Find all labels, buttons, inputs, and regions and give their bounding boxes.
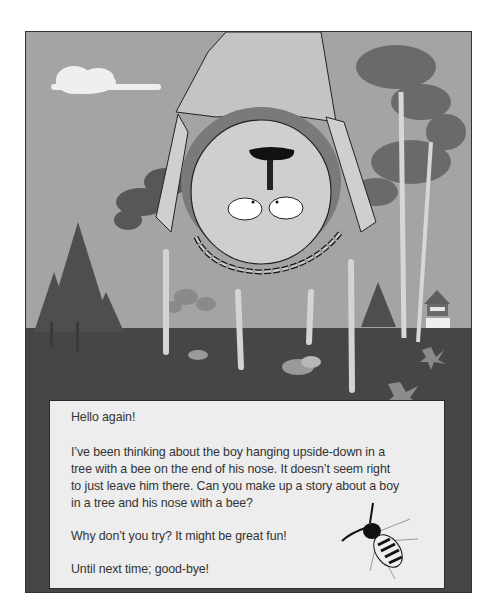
small-trees-icon (166, 289, 216, 313)
letter-paragraph-2: Why don’t you try? It might be great fun… (71, 528, 287, 545)
letter-line-1: I’ve been thinking about the boy hanging… (71, 444, 385, 461)
letter-line-3: to just leave him there. Can you make up… (71, 478, 399, 495)
bee-icon (267, 160, 273, 190)
house-icon (424, 290, 450, 328)
letter-box: Hello again! I’ve been thinking about th… (49, 400, 445, 589)
illustration-frame: Hello again! I’ve been thinking about th… (25, 31, 472, 593)
letter-greeting: Hello again! (71, 409, 135, 426)
boy-head (191, 120, 331, 264)
eye-left (228, 198, 262, 220)
tree-right-icon (354, 45, 466, 206)
eye-right (269, 197, 303, 219)
pine-tree-small-icon (361, 282, 396, 327)
letter-line-2: tree with a bee on the end of his nose. … (71, 461, 390, 478)
pine-tree-icon (34, 222, 124, 332)
letter-closing: Until next time; good-bye! (71, 561, 209, 578)
letter-line-4: in a tree and his nose with a bee? (71, 495, 253, 512)
cloud-icon (51, 66, 161, 94)
wasp-icon (340, 501, 430, 581)
